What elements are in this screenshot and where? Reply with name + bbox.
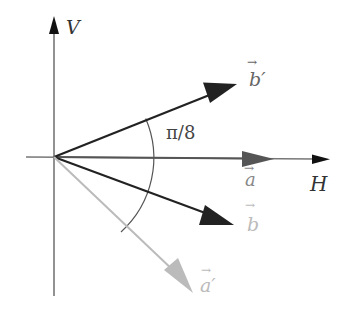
vector-a-label: a: [245, 169, 256, 190]
horizontal-axis-arrowhead-icon: [312, 155, 330, 165]
vector-rotation-diagram: V H π/8 → a → b′ → b → a′: [0, 0, 354, 310]
vector-b-prime-arrow-mark: →: [247, 55, 257, 69]
vector-b-prime-arrowhead-icon: [203, 83, 237, 104]
vector-a-prime-label: a′: [200, 274, 216, 296]
vector-a: → a: [54, 151, 274, 190]
vector-b: → b: [54, 157, 259, 235]
vector-a-prime: → a′: [54, 157, 216, 296]
angle-arc: [121, 119, 154, 233]
vector-b-prime: → b′: [54, 55, 266, 157]
vector-b-label: b: [247, 213, 259, 235]
vertical-axis-label: V: [66, 16, 82, 38]
vector-a-prime-arrowhead-icon: [164, 258, 193, 293]
vertical-axis-arrowhead-icon: [49, 16, 59, 34]
vector-b-arrowhead-icon: [199, 205, 234, 225]
angle-label: π/8: [166, 122, 195, 143]
horizontal-axis-label: H: [309, 172, 328, 196]
vector-b-prime-label: b′: [249, 68, 266, 90]
vector-b-arrow-mark: →: [245, 198, 255, 212]
horizontal-axis: H: [26, 155, 330, 197]
